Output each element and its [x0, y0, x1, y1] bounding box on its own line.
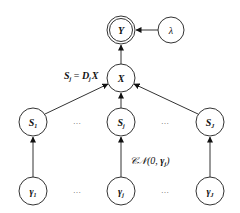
node-lambda-label: λ [168, 25, 174, 36]
prior-annotation: 𝒞𝒩(0, γj) [130, 155, 170, 167]
relation-annotation: Sj = DjX [64, 70, 99, 82]
node-gammaj-sub: j [121, 192, 124, 198]
node-y-label: Y [118, 25, 125, 36]
node-x-label: X [117, 73, 125, 84]
node-gammaJ: γJ [196, 177, 224, 205]
node-sJ: SJ [196, 108, 224, 136]
node-sj-sub: j [122, 123, 125, 129]
node-lambda: λ [158, 17, 184, 43]
ellipsis-s-right: … [161, 117, 169, 126]
ellipsis-gamma-right: … [161, 186, 169, 195]
edges [33, 30, 210, 177]
node-s1: S1 [19, 108, 47, 136]
node-gamma1-sub: 1 [34, 192, 37, 198]
node-y: Y [107, 16, 135, 44]
ellipsis-s-left: … [73, 117, 81, 126]
node-sj: Sj [107, 108, 135, 136]
graphical-model-diagram: Y λ X S1 Sj SJ γ1 γj [0, 0, 240, 213]
node-s1-sub: 1 [34, 123, 37, 129]
edge-sJ-to-x [134, 84, 198, 114]
node-gamma1: γ1 [19, 177, 47, 205]
edge-s1-to-x [45, 84, 108, 114]
node-gammaj: γj [107, 177, 135, 205]
ellipsis-gamma-left: … [73, 186, 81, 195]
node-x: X [107, 64, 135, 92]
